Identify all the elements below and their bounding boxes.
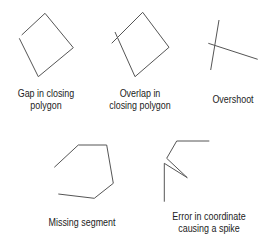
overlap-polygon-shape bbox=[112, 12, 169, 76]
gap-polygon-shape bbox=[19, 13, 73, 76]
overlap-label: Overlap in closing polygon bbox=[102, 87, 179, 111]
missing-segment-label: Missing segment bbox=[44, 216, 121, 228]
spike-label: Error in coordinate causing a spike bbox=[162, 210, 256, 234]
spike-label-line-2: causing a spike bbox=[162, 222, 256, 234]
missing-segment-shape bbox=[54, 145, 113, 198]
overlap-label-line-2: closing polygon bbox=[102, 99, 179, 111]
gap-label-line-1: Gap in closing bbox=[12, 87, 80, 99]
gap-label-line-2: polygon bbox=[12, 99, 80, 111]
overlap-label-line-1: Overlap in bbox=[102, 87, 179, 99]
overshoot-label: Overshoot bbox=[203, 93, 263, 105]
gap-label: Gap in closing polygon bbox=[12, 87, 80, 111]
missing-segment-label-line-1: Missing segment bbox=[44, 216, 121, 228]
spike-label-line-1: Error in coordinate bbox=[162, 210, 256, 222]
spike-shape bbox=[164, 141, 209, 202]
topology-errors-diagram bbox=[0, 0, 272, 244]
overshoot-line-2 bbox=[208, 43, 257, 59]
overshoot-shape bbox=[208, 20, 257, 70]
overshoot-label-line-1: Overshoot bbox=[203, 93, 263, 105]
